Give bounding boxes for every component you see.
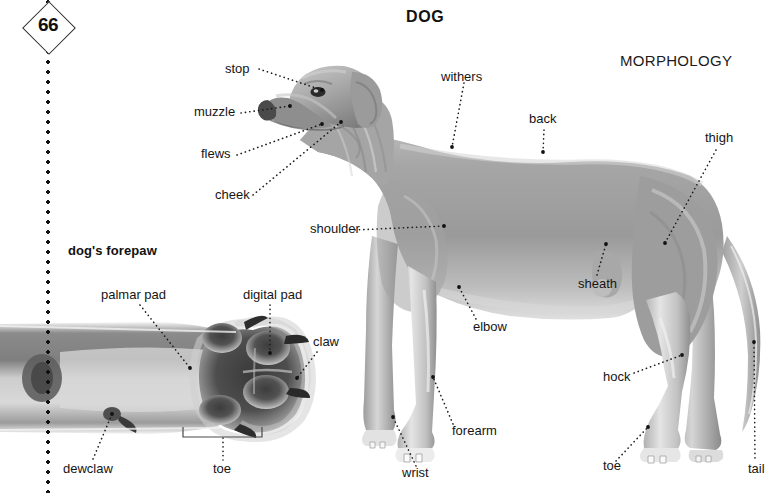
folio-number: 66 <box>20 14 76 36</box>
dog-body-illustration <box>258 66 760 463</box>
label-toe-rear: toe <box>603 459 621 473</box>
page-folio: 66 <box>20 4 76 56</box>
label-palmar-pad: palmar pad <box>101 288 166 302</box>
label-cheek: cheek <box>215 188 250 202</box>
label-sheath: sheath <box>578 277 617 291</box>
label-wrist: wrist <box>402 466 429 480</box>
label-flews: flews <box>201 147 231 161</box>
label-claw: claw <box>313 335 339 349</box>
forepaw-panel-title: dog's forepaw <box>68 243 157 258</box>
label-stop: stop <box>225 62 250 76</box>
label-shoulder: shoulder <box>310 222 360 236</box>
label-back: back <box>529 112 556 126</box>
label-thigh: thigh <box>705 131 733 145</box>
label-hock: hock <box>603 370 630 384</box>
label-digital-pad: digital pad <box>243 288 302 302</box>
page-title: DOG <box>406 8 444 26</box>
page-gutter-dotted-rule <box>46 0 50 493</box>
label-elbow: elbow <box>473 320 507 334</box>
section-heading: MORPHOLOGY <box>620 52 732 69</box>
page-canvas: 66 DOG MORPHOLOGY dog's forepaw stop muz… <box>0 0 771 493</box>
label-forearm: forearm <box>452 424 497 438</box>
label-withers: withers <box>441 70 482 84</box>
label-dewclaw: dewclaw <box>63 462 113 476</box>
label-toe-paw: toe <box>213 462 231 476</box>
label-tail: tail <box>748 462 765 476</box>
label-muzzle: muzzle <box>194 105 235 119</box>
